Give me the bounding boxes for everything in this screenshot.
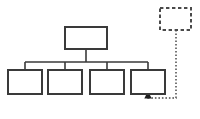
node-layer	[8, 8, 191, 94]
child-node-2[interactable]	[48, 70, 82, 94]
diagram-svg	[0, 0, 200, 119]
root-node[interactable]	[65, 27, 107, 49]
child-node-3[interactable]	[90, 70, 124, 94]
child-node-1[interactable]	[8, 70, 42, 94]
diagram-canvas	[0, 0, 200, 119]
child-node-4[interactable]	[131, 70, 165, 94]
external-dashed-node[interactable]	[160, 8, 191, 30]
